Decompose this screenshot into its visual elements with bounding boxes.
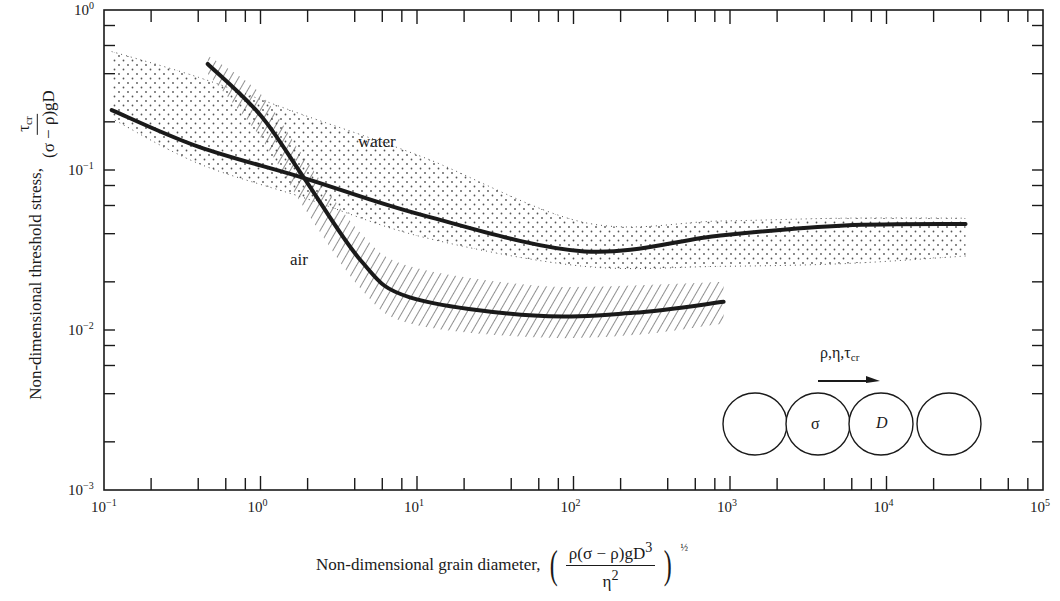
- x-tick-label: 102: [561, 498, 581, 515]
- x-tick-label: 101: [404, 498, 424, 515]
- y-tick-label: 10−1: [68, 161, 94, 178]
- x-tick-label: 100: [248, 498, 268, 515]
- x-axis-exponent: ½: [681, 542, 689, 553]
- x-tick-label: 104: [874, 498, 894, 515]
- x-tick-label: 103: [717, 498, 737, 515]
- inset-diameter-label: D: [876, 414, 888, 432]
- x-tick-label: 10−1: [91, 498, 117, 515]
- chart-canvas: [0, 0, 1060, 601]
- flow-arrow-head: [866, 376, 880, 383]
- x-axis-label-text: Non-dimensional grain diameter,: [316, 555, 541, 575]
- grain-circle: [723, 393, 787, 455]
- inset-flow-label: ρ,η,τcr: [820, 344, 859, 363]
- right-paren: ): [664, 545, 672, 585]
- y-axis-label: Non-dimensional threshold stress, τcr (σ…: [6, 0, 66, 490]
- y-tick-label: 10−3: [68, 481, 94, 498]
- x-axis-formula: ρ(σ − ρ)gD3 η2: [566, 540, 655, 590]
- y-tick-label: 10−2: [68, 321, 94, 338]
- y-axis-formula: τcr (σ − ρ)gD: [15, 90, 57, 158]
- water-curve-label: water: [358, 132, 396, 152]
- x-tick-label: 105: [1030, 498, 1050, 515]
- y-axis-label-text: Non-dimensional threshold stress,: [26, 168, 46, 400]
- left-paren: (: [549, 545, 557, 585]
- grain-inset-diagram: [723, 376, 981, 455]
- y-tick-label: 100: [74, 1, 94, 18]
- grain-circle: [917, 393, 981, 455]
- inset-sigma-label: σ: [811, 415, 820, 433]
- air-curve-label: air: [290, 250, 308, 270]
- x-axis-label: Non-dimensional grain diameter, ( ρ(σ − …: [316, 540, 688, 590]
